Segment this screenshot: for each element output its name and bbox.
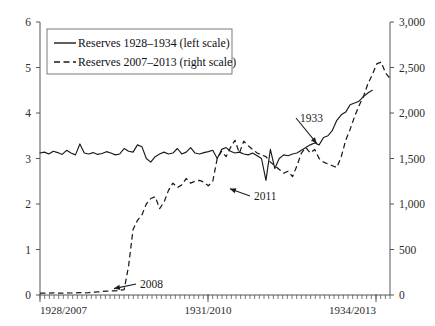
x-axis-tick-label: 1928/2007 bbox=[40, 304, 88, 316]
y-axis-right-ticks: 05001,0001,5002,0002,5003,000 bbox=[390, 16, 425, 301]
annotation-arrowhead-2008 bbox=[114, 285, 120, 290]
y-axis-right-tick-label: 1,500 bbox=[399, 153, 425, 166]
legend-label-solid: Reserves 1928–1934 (left scale) bbox=[78, 36, 230, 50]
legend-label-dashed: Reserves 2007–2013 (right scale) bbox=[78, 55, 236, 69]
x-axis-major-ticks: 1928/20071931/20101934/2013 bbox=[40, 294, 376, 316]
chart-figure: 0123456 05001,0001,5002,0002,5003,000 19… bbox=[0, 0, 435, 326]
y-axis-right-tick-label: 2,000 bbox=[399, 107, 425, 120]
y-axis-right-tick-label: 0 bbox=[399, 289, 405, 301]
chart-legend: Reserves 1928–1934 (left scale) Reserves… bbox=[47, 29, 236, 74]
annotation-label-2011: 2011 bbox=[254, 190, 277, 202]
x-axis-minor-ticks bbox=[40, 295, 390, 299]
chart-annotations: 193320112008 bbox=[114, 112, 323, 290]
y-axis-right-tick-label: 2,500 bbox=[399, 62, 425, 75]
x-axis-tick-label: 1931/2010 bbox=[184, 304, 232, 316]
y-axis-left-tick-label: 0 bbox=[25, 289, 31, 301]
y-axis-right-tick-label: 1,000 bbox=[399, 198, 425, 211]
y-axis-left-tick-label: 4 bbox=[25, 107, 31, 119]
annotation-label-2008: 2008 bbox=[140, 278, 163, 290]
y-axis-left-tick-label: 5 bbox=[25, 62, 31, 74]
x-axis-tick-label: 1934/2013 bbox=[329, 304, 377, 316]
y-axis-left-tick-label: 3 bbox=[25, 153, 31, 165]
annotation-label-1933: 1933 bbox=[300, 112, 323, 124]
y-axis-left-tick-label: 1 bbox=[25, 244, 31, 256]
series-line-reserves-2007-2013 bbox=[40, 62, 390, 293]
chart-plot-area: 0123456 05001,0001,5002,0002,5003,000 19… bbox=[0, 0, 435, 326]
y-axis-left-tick-label: 6 bbox=[25, 16, 31, 28]
y-axis-left-ticks: 0123456 bbox=[25, 16, 40, 301]
y-axis-right-tick-label: 3,000 bbox=[399, 16, 425, 29]
y-axis-right-tick-label: 500 bbox=[399, 244, 417, 256]
y-axis-left-tick-label: 2 bbox=[25, 198, 31, 210]
series-line-reserves-1928-1934 bbox=[40, 90, 372, 180]
annotation-arrowhead-2011 bbox=[230, 188, 237, 193]
